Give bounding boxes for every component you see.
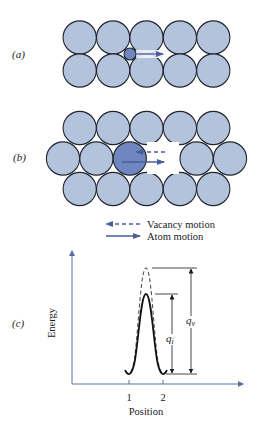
lattice-atom <box>197 54 230 87</box>
y-axis-label: Energy <box>46 307 57 338</box>
lattice-atom <box>197 21 230 54</box>
lattice-atom <box>197 111 230 144</box>
panel-c-label: (c) <box>12 317 25 330</box>
lattice-b-middle-row <box>46 142 246 175</box>
lattice-atom <box>197 172 230 205</box>
panel-a-label: (a) <box>12 48 25 61</box>
lattice-atom <box>130 54 163 87</box>
legend-atom-label: Atom motion <box>147 231 204 242</box>
x-tick-label-1: 1 <box>126 392 131 403</box>
qv-label: qv <box>186 314 196 328</box>
interstitial-atom <box>124 48 136 60</box>
lattice-atom <box>163 54 196 87</box>
lattice-atom <box>97 111 130 144</box>
lattice-b-top-row <box>63 111 230 144</box>
lattice-b-bottom-row <box>63 172 230 205</box>
vacancy-site <box>147 142 179 174</box>
interstitial-energy-curve <box>125 294 167 374</box>
lattice-atom <box>163 21 196 54</box>
legend-vacancy-label: Vacancy motion <box>147 219 216 230</box>
lattice-atom <box>130 172 163 205</box>
panel-a: (a) <box>12 21 230 87</box>
qi-label: qi <box>166 332 174 346</box>
lattice-atom <box>130 21 163 54</box>
lattice-atom <box>130 111 163 144</box>
lattice-atom <box>63 54 96 87</box>
migrating-atom <box>113 142 146 175</box>
panel-c: (c) Energy 1 2 Position qi qv <box>12 251 243 417</box>
legend: Vacancy motion Atom motion <box>106 219 216 242</box>
lattice-atom <box>97 54 130 87</box>
diffusion-mechanisms-figure: (a) (b) <box>0 0 260 428</box>
lattice-atom <box>213 142 246 175</box>
lattice-atom <box>180 142 213 175</box>
lattice-atom <box>46 142 79 175</box>
lattice-atom <box>163 111 196 144</box>
lattice-atom <box>163 172 196 205</box>
panel-b-label: (b) <box>13 151 26 164</box>
lattice-atom <box>80 142 113 175</box>
lattice-atom <box>97 172 130 205</box>
x-axis-label: Position <box>129 406 164 417</box>
x-tick-label-2: 2 <box>160 392 165 403</box>
lattice-atom <box>97 21 130 54</box>
lattice-atom <box>63 111 96 144</box>
lattice-atom <box>63 172 96 205</box>
panel-b: (b) <box>13 111 247 205</box>
vacancy-energy-curve <box>126 268 166 373</box>
lattice-atom <box>63 21 96 54</box>
